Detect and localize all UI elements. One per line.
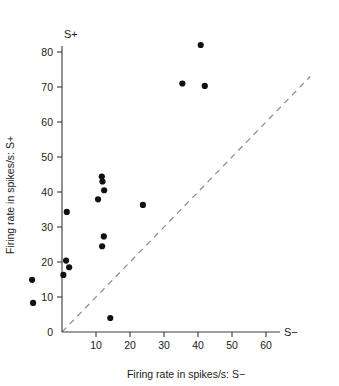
- data-point: [99, 243, 105, 249]
- y-tick-label: 60: [41, 116, 53, 128]
- x-tick-label: 60: [260, 339, 272, 351]
- scatter-plot-figure: 01020304050607080102030405060S+S−Firing …: [0, 0, 339, 386]
- label-s-minus: S−: [284, 326, 298, 338]
- y-tick-label: 20: [41, 256, 53, 268]
- y-tick-label: 70: [41, 81, 53, 93]
- x-tick-label: 50: [226, 339, 238, 351]
- data-point: [99, 178, 105, 184]
- plot-canvas: 01020304050607080102030405060S+S−Firing …: [0, 0, 339, 386]
- y-tick-label: 50: [41, 151, 53, 163]
- data-point: [101, 187, 107, 193]
- unity-reference-line: [62, 77, 310, 333]
- data-point: [30, 300, 36, 306]
- data-point: [66, 264, 72, 270]
- x-tick-label: 10: [90, 339, 102, 351]
- data-point: [63, 258, 69, 264]
- x-axis-title: Firing rate in spikes/s: S−: [127, 368, 245, 380]
- x-tick-label: 30: [158, 339, 170, 351]
- y-axis-title: Firing rate in spikes/s: S+: [4, 136, 16, 254]
- data-point: [140, 202, 146, 208]
- data-point: [198, 42, 204, 48]
- x-tick-label: 40: [192, 339, 204, 351]
- y-tick-label: 30: [41, 221, 53, 233]
- data-point: [107, 315, 113, 321]
- data-point: [101, 233, 107, 239]
- data-point: [64, 209, 70, 215]
- data-point: [60, 272, 66, 278]
- y-tick-label: 80: [41, 46, 53, 58]
- data-point: [29, 277, 35, 283]
- data-point: [95, 196, 101, 202]
- x-tick-label: 20: [124, 339, 136, 351]
- label-s-plus: S+: [64, 28, 78, 40]
- y-tick-label: 0: [47, 326, 53, 338]
- y-tick-label: 10: [41, 291, 53, 303]
- data-point: [202, 83, 208, 89]
- y-tick-label: 40: [41, 186, 53, 198]
- data-point: [179, 80, 185, 86]
